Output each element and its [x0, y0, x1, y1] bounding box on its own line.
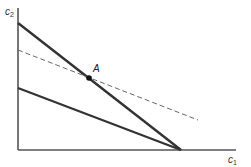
steep-budget-line [18, 23, 181, 150]
point-a-marker [86, 75, 92, 81]
flat-budget-line [18, 88, 181, 150]
y-axis-label: c2 [5, 7, 14, 18]
dashed-budget-line [18, 50, 198, 120]
x-axis-label: c1 [228, 155, 237, 166]
point-a-label: A [93, 64, 100, 74]
budget-constraint-diagram [0, 0, 251, 167]
y-axis-label-sub: 2 [10, 11, 14, 18]
x-axis-label-sub: 1 [233, 159, 237, 166]
